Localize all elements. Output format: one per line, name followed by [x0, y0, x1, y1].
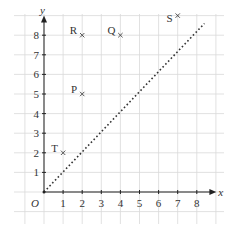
y-tick-label: 7 — [34, 49, 40, 61]
x-axis-label: x — [217, 186, 223, 198]
y-tick-label: 4 — [34, 108, 40, 120]
x-tick-label: 7 — [175, 197, 181, 209]
x-axis-ticks: 12345678 — [60, 190, 200, 209]
x-tick-label: 1 — [60, 197, 66, 209]
y-tick-label: 2 — [34, 147, 40, 159]
point-label: S — [167, 12, 173, 24]
y-axis-label: y — [39, 4, 45, 16]
y-tick-label: 5 — [34, 88, 40, 100]
point-label: T — [51, 142, 58, 154]
point-label: P — [71, 83, 77, 95]
dotted-line-y-equals-x — [44, 23, 204, 192]
y-tick-label: 1 — [34, 166, 40, 178]
point-label: Q — [107, 24, 115, 36]
x-axis-arrow-icon — [209, 189, 216, 195]
x-tick-label: 6 — [156, 197, 162, 209]
x-tick-label: 2 — [79, 197, 85, 209]
x-tick-label: 5 — [137, 197, 143, 209]
x-tick-label: 4 — [118, 197, 124, 209]
origin-dot — [43, 191, 46, 194]
y-tick-label: 8 — [34, 29, 40, 41]
x-tick-label: 8 — [194, 197, 200, 209]
origin-label: O — [31, 197, 39, 209]
y-tick-label: 3 — [34, 127, 40, 139]
y-tick-label: 6 — [34, 68, 40, 80]
coordinate-grid-chart: 12345678 12345678 PQRST x y O — [0, 0, 234, 243]
point-label: R — [70, 24, 78, 36]
y-axis-arrow-icon — [41, 15, 47, 22]
dotted-line — [44, 23, 204, 192]
x-tick-label: 3 — [99, 197, 105, 209]
